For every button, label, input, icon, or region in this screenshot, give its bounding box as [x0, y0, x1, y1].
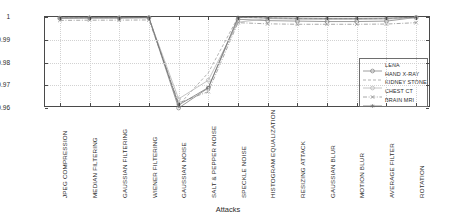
x-tick-mark: [90, 103, 91, 106]
x-gridline: [179, 17, 180, 106]
x-gridline: [208, 17, 209, 106]
x-tick-mark: [297, 17, 298, 20]
x-tick-mark: [327, 17, 328, 20]
x-gridline: [386, 17, 387, 106]
x-tick-label: ROTATION: [418, 165, 425, 198]
legend-item[interactable]: BRAIN MRI: [362, 95, 424, 104]
x-tick-mark: [357, 17, 358, 20]
x-gridline: [60, 17, 61, 106]
legend-label: CHEST CT: [383, 88, 413, 94]
x-tick-label: GAUSSIAN FILTERING: [121, 129, 128, 198]
y-tick-mark: [426, 17, 429, 18]
x-tick-mark: [119, 103, 120, 106]
x-tick-mark: [179, 17, 180, 20]
x-tick-mark: [149, 17, 150, 20]
x-tick-label: MEDIAN FILTERING: [91, 137, 98, 198]
x-tick-mark: [208, 17, 209, 20]
legend-item[interactable]: CHEST CT: [362, 87, 424, 96]
y-tick-mark: [45, 17, 48, 18]
y-tick-mark: [45, 108, 48, 109]
x-axis-title: Attacks: [0, 205, 456, 214]
x-tick-mark: [416, 17, 417, 20]
legend-label: HAND X-RAY: [383, 71, 419, 77]
x-gridline: [119, 17, 120, 106]
x-gridline: [238, 17, 239, 106]
y-tick-mark: [45, 63, 48, 64]
y-tick-mark: [426, 108, 429, 109]
x-tick-label: SALT & PEPPER NOISE: [210, 126, 217, 198]
x-tick-mark: [386, 103, 387, 106]
y-tick-mark: [426, 40, 429, 41]
x-tick-mark: [297, 103, 298, 106]
x-tick-mark: [119, 17, 120, 20]
x-tick-label: SPECKLE NOISE: [240, 146, 247, 198]
x-tick-mark: [149, 103, 150, 106]
y-gridline: [45, 85, 429, 86]
y-tick-label: 0.96: [0, 104, 10, 111]
x-tick-label: HISTOGRAM EQUALIZATION: [269, 110, 276, 198]
x-tick-label: WIENER FILTERING: [151, 136, 158, 198]
y-tick-mark: [426, 63, 429, 64]
legend-swatch: [362, 70, 383, 78]
x-tick-mark: [238, 103, 239, 106]
data-point-marker: [371, 104, 375, 108]
legend-label: BRAIN MRI: [383, 97, 414, 103]
x-gridline: [327, 17, 328, 106]
x-tick-mark: [268, 17, 269, 20]
chart-legend: LENAHAND X-RAYKIDNEY STONECHEST CTBRAIN …: [359, 58, 428, 107]
x-tick-label: GAUSSIAN BLUR: [329, 145, 336, 198]
x-tick-mark: [416, 103, 417, 106]
x-gridline: [297, 17, 298, 106]
x-gridline: [90, 17, 91, 106]
x-tick-label: GAUSSIAN NOISE: [180, 142, 187, 198]
x-tick-mark: [60, 17, 61, 20]
legend-swatch: [362, 96, 383, 104]
x-tick-mark: [386, 17, 387, 20]
x-tick-label: JPEG COMPRESSION: [61, 131, 68, 199]
x-tick-mark: [327, 103, 328, 106]
x-tick-mark: [208, 103, 209, 106]
x-gridline: [416, 17, 417, 106]
y-tick-mark: [426, 85, 429, 86]
x-gridline: [268, 17, 269, 106]
y-gridline: [45, 40, 429, 41]
y-tick-label: 0.97: [0, 81, 10, 88]
legend-swatch: [362, 87, 383, 95]
x-tick-mark: [238, 17, 239, 20]
x-gridline: [357, 17, 358, 106]
y-gridline: [45, 63, 429, 64]
x-tick-mark: [90, 17, 91, 20]
chart-root: correlation coefficient LENAHAND X-RAYKI…: [0, 0, 456, 223]
x-tick-label: AVERAGE FILTER: [388, 143, 395, 198]
y-tick-label: 1: [0, 13, 10, 20]
y-tick-mark: [45, 40, 48, 41]
x-tick-mark: [179, 103, 180, 106]
x-gridline: [149, 17, 150, 106]
x-tick-mark: [60, 103, 61, 106]
x-tick-mark: [268, 103, 269, 106]
x-tick-label: RESIZING ATTACK: [299, 141, 306, 198]
plot-area: LENAHAND X-RAYKIDNEY STONECHEST CTBRAIN …: [44, 16, 430, 107]
legend-item[interactable]: HAND X-RAY: [362, 70, 424, 79]
y-tick-label: 0.99: [0, 35, 10, 42]
x-tick-mark: [357, 103, 358, 106]
y-tick-label: 0.98: [0, 58, 10, 65]
x-tick-label: MOTION BLUR: [358, 153, 365, 198]
y-tick-mark: [45, 85, 48, 86]
